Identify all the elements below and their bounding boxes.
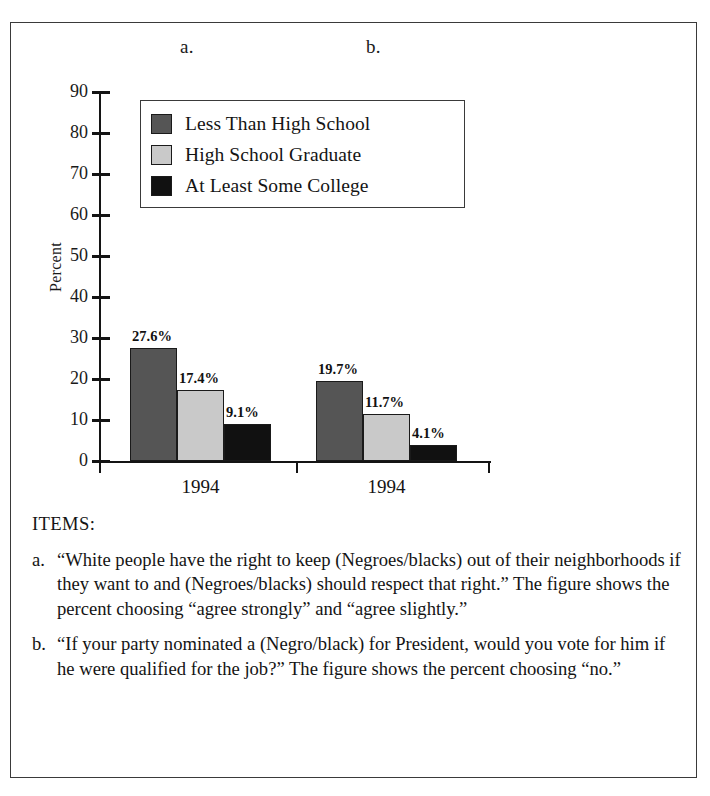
bar-b-2 xyxy=(363,414,410,462)
bar-value-label: 9.1% xyxy=(226,404,259,421)
bar-a-3 xyxy=(224,424,271,461)
bar-chart: Percent 9080706050403020100 27.6%17.4%9.… xyxy=(0,0,710,520)
y-tick-label-30: 30 xyxy=(42,327,88,348)
item-entry-a: a. “White people have the right to keep … xyxy=(32,548,682,622)
item-marker-a: a. xyxy=(32,548,57,622)
legend-label-high-school-graduate: High School Graduate xyxy=(185,145,361,165)
y-tick-label-70: 70 xyxy=(42,163,88,184)
y-tick-label-60: 60 xyxy=(42,204,88,225)
x-tick-2 xyxy=(488,461,490,473)
bar-value-label: 17.4% xyxy=(179,370,219,387)
bar-a-2 xyxy=(177,390,224,461)
y-tick-20 xyxy=(92,378,110,380)
bar-value-label: 11.7% xyxy=(365,394,404,411)
y-tick-label-80: 80 xyxy=(42,122,88,143)
bar-a-1 xyxy=(130,348,177,461)
bar-value-label: 19.7% xyxy=(318,361,358,378)
item-entry-b: b. “If your party nominated a (Negro/bla… xyxy=(32,632,682,681)
bar-value-label: 4.1% xyxy=(412,425,445,442)
y-tick-label-0: 0 xyxy=(42,450,88,471)
bar-b-1 xyxy=(316,381,363,462)
item-text-b: “If your party nominated a (Negro/black)… xyxy=(57,632,682,681)
chart-legend: Less Than High School High School Gradua… xyxy=(140,100,465,208)
y-tick-label-10: 10 xyxy=(42,409,88,430)
item-marker-b: b. xyxy=(32,632,57,681)
items-heading: ITEMS: xyxy=(32,512,682,537)
y-tick-label-90: 90 xyxy=(42,81,88,102)
y-tick-60 xyxy=(92,214,110,216)
y-tick-label-20: 20 xyxy=(42,368,88,389)
legend-swatch-high-school-graduate xyxy=(151,145,172,165)
y-tick-70 xyxy=(92,173,110,175)
x-tick-0 xyxy=(99,461,101,473)
y-axis-title: Percent xyxy=(47,207,65,327)
x-group-label: 1994 xyxy=(141,476,261,498)
y-tick-10 xyxy=(92,419,110,421)
y-tick-40 xyxy=(92,296,110,298)
legend-label-less-than-high-school: Less Than High School xyxy=(185,114,370,134)
items-block: ITEMS: a. “White people have the right t… xyxy=(32,512,682,691)
legend-item: At Least Some College xyxy=(151,170,464,201)
legend-item: Less Than High School xyxy=(151,108,464,139)
item-text-a: “White people have the right to keep (Ne… xyxy=(57,548,682,622)
y-tick-label-50: 50 xyxy=(42,245,88,266)
y-tick-80 xyxy=(92,132,110,134)
y-tick-label-40: 40 xyxy=(42,286,88,307)
y-tick-90 xyxy=(92,91,110,93)
legend-label-at-least-some-college: At Least Some College xyxy=(185,176,369,196)
bar-b-3 xyxy=(410,445,457,462)
x-tick-1 xyxy=(296,461,298,473)
legend-swatch-less-than-high-school xyxy=(151,114,172,134)
legend-swatch-at-least-some-college xyxy=(151,176,172,196)
legend-item: High School Graduate xyxy=(151,139,464,170)
bar-value-label: 27.6% xyxy=(132,328,172,345)
x-group-label: 1994 xyxy=(327,476,447,498)
y-tick-30 xyxy=(92,337,110,339)
y-tick-50 xyxy=(92,255,110,257)
y-axis-spine xyxy=(99,92,101,464)
